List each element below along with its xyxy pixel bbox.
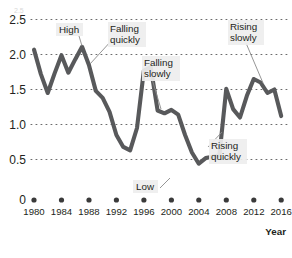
annotation-rising-slowly: Rising slowly bbox=[228, 20, 264, 45]
x-tick-dot bbox=[114, 197, 119, 202]
line-chart: 2.5 2.5 2.0 1.5 1.0 0.5 0 bbox=[0, 0, 292, 258]
x-tick-label: 1980 bbox=[23, 206, 44, 217]
x-tick-label: 2016 bbox=[271, 206, 292, 217]
x-tick-label: 1988 bbox=[78, 206, 99, 217]
anno-falling-quickly-line2: quickly bbox=[110, 34, 140, 45]
x-axis-title: Year bbox=[265, 226, 286, 237]
anno-low-label: Low bbox=[136, 181, 155, 192]
x-tick-label: 2008 bbox=[216, 206, 237, 217]
x-tick-dot bbox=[224, 197, 229, 202]
anno-rising-slowly-line1: Rising bbox=[230, 21, 257, 32]
x-tick-dot bbox=[279, 197, 284, 202]
x-tick-dot bbox=[141, 197, 146, 202]
x-tick-label: 2012 bbox=[243, 206, 264, 217]
anno-rising-quickly-line2: quickly bbox=[211, 151, 241, 162]
annotation-rising-quickly: Rising quickly bbox=[209, 139, 247, 164]
x-tick-dot bbox=[251, 197, 256, 202]
x-tick-label: 1984 bbox=[51, 206, 73, 217]
anno-falling-slowly-line2: slowly bbox=[144, 68, 171, 79]
x-tick-dot bbox=[59, 197, 64, 202]
anno-rising-slowly-line2: slowly bbox=[230, 32, 257, 43]
x-tick-dot bbox=[31, 197, 36, 202]
x-tick-label: 1996 bbox=[133, 206, 154, 217]
annotation-high: High bbox=[56, 23, 83, 36]
anno-falling-quickly-line1: Falling bbox=[110, 23, 139, 34]
anno-rising-quickly-line1: Rising bbox=[211, 140, 238, 151]
x-tick-dot bbox=[86, 197, 91, 202]
x-tick-label: 2000 bbox=[161, 206, 182, 217]
x-tick-dot bbox=[169, 197, 174, 202]
x-tick-label: 1992 bbox=[106, 206, 127, 217]
anno-falling-slowly-line1: Falling bbox=[144, 57, 173, 68]
annotation-falling-slowly: Falling slowly bbox=[142, 56, 180, 81]
annotation-low: Low bbox=[133, 180, 158, 193]
x-tick-dot bbox=[196, 197, 201, 202]
chart-canvas: 2.5 2.5 2.0 1.5 1.0 0.5 0 bbox=[0, 0, 292, 258]
annotation-falling-quickly: Falling quickly bbox=[108, 22, 146, 47]
anno-high-label: High bbox=[59, 24, 79, 35]
x-tick-label: 2004 bbox=[188, 206, 210, 217]
